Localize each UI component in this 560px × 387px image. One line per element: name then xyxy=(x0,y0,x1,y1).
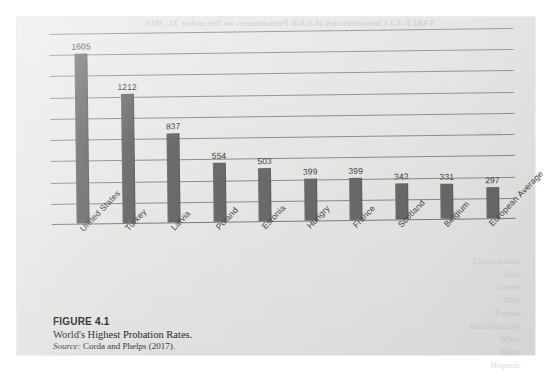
bar-group[interactable]: 503 xyxy=(258,156,272,222)
y-axis-tick xyxy=(49,55,58,56)
bar[interactable] xyxy=(121,94,136,223)
bar-value-label: 399 xyxy=(348,166,363,176)
y-axis-tick xyxy=(51,140,60,141)
figure-caption: FIGURE 4.1 World's Highest Probation Rat… xyxy=(53,316,353,351)
bar-group[interactable]: 554 xyxy=(212,151,226,222)
bar-group[interactable]: 1605 xyxy=(75,41,90,223)
y-axis-tick xyxy=(50,97,59,98)
y-axis-tick xyxy=(50,119,59,120)
bar[interactable] xyxy=(167,133,181,222)
y-axis-tick xyxy=(51,182,60,183)
y-axis-tick xyxy=(50,76,59,77)
y-axis-tick xyxy=(51,204,60,205)
figure-source-text: Source: Corda and Phelps (2017). xyxy=(53,341,353,351)
bar[interactable] xyxy=(75,53,90,223)
source-label: Source: xyxy=(53,341,81,351)
bleed-through-line: Hispanic xyxy=(470,359,521,372)
bar-value-label: 503 xyxy=(257,156,272,166)
figure-title-text: World's Highest Probation Rates. xyxy=(53,329,353,340)
y-axis-tick xyxy=(51,161,60,162)
y-axis-tick xyxy=(49,34,58,35)
bar-group[interactable]: 1212 xyxy=(121,82,136,223)
bar-value-label: 1605 xyxy=(71,41,90,51)
bar-value-label: 297 xyxy=(485,175,500,185)
source-citation: Corda and Phelps (2017). xyxy=(83,341,175,351)
bar-value-label: 343 xyxy=(394,171,409,181)
bleed-through-line: Race/Ethnicity xyxy=(470,320,521,333)
figure-number-label: FIGURE 4.1 xyxy=(53,316,353,327)
bar-value-label: 399 xyxy=(303,166,318,176)
bar-value-label: 554 xyxy=(212,151,227,161)
bar-value-label: 331 xyxy=(440,172,455,182)
figure-chart: 16051212837554503399399343331297 United … xyxy=(17,17,535,277)
plot-area: 16051212837554503399399343331297 xyxy=(58,28,515,225)
x-axis-category-labels: United StatesTurkeyLatviaPolandEstoniaHu… xyxy=(61,221,517,327)
bleed-through-line: White xyxy=(470,333,521,346)
bar-value-label: 1212 xyxy=(117,82,136,92)
scanned-page-sheet: TABLE 4.2 Characteristics of Adult Proba… xyxy=(17,17,535,355)
bar-group[interactable]: 837 xyxy=(167,121,181,222)
bleed-through-line: Black xyxy=(470,346,521,359)
bar-value-label: 837 xyxy=(166,121,181,131)
bar-series: 16051212837554503399399343331297 xyxy=(58,28,515,225)
